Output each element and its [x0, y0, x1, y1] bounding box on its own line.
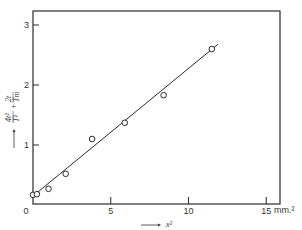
origin-label: 0 [23, 206, 28, 216]
y-tick-label: 3 [24, 20, 29, 30]
data-point-marker [63, 171, 69, 177]
data-point-marker [122, 120, 128, 126]
data-point-marker [89, 136, 95, 142]
x-axis-label: x² [165, 220, 173, 229]
y-arrowhead-icon [13, 129, 16, 132]
data-point-marker [161, 92, 167, 98]
x-tick-label: 15 [261, 206, 271, 216]
x-arrowhead-icon [158, 224, 161, 227]
x-unit-label: mm.² [274, 205, 295, 215]
y-tick-label: 1 [24, 140, 29, 150]
data-point-marker [209, 46, 215, 52]
x-axis-ticks: 51015 [108, 197, 271, 216]
x-tick-label: 10 [183, 206, 193, 216]
plot-frame [33, 11, 280, 204]
x-axis-title: x² [141, 220, 173, 229]
x-tick-label: 5 [108, 206, 113, 216]
data-point-marker [34, 191, 40, 197]
y-label-den1: T² [12, 115, 21, 122]
y-axis-title: 4t² T² + 2t Tm [4, 92, 21, 148]
y-label-plus: + [9, 104, 18, 109]
y-label-den2: Tm [12, 92, 21, 102]
data-points [30, 46, 214, 197]
data-point-marker [46, 186, 52, 192]
y-tick-label: 2 [24, 80, 29, 90]
y-axis-ticks: 123 [24, 20, 39, 150]
chart: 51015 123 0 mm.² x² 4t² T² + 2t Tm [0, 0, 302, 230]
